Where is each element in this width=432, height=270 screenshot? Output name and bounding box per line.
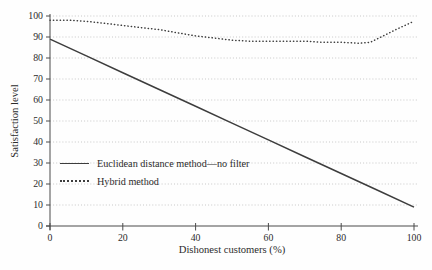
y-tick-label-70: 70 xyxy=(33,73,43,84)
legend: Euclidean distance method—no filter Hybr… xyxy=(60,154,249,190)
legend-item-euclidean: Euclidean distance method—no filter xyxy=(60,154,249,172)
legend-label-hybrid: Hybrid method xyxy=(97,176,159,187)
y-tick-label-10: 10 xyxy=(33,199,43,210)
legend-item-hybrid: Hybrid method xyxy=(60,172,249,190)
x-tick-label-0: 0 xyxy=(48,232,53,243)
solid-line-sample-icon xyxy=(60,163,89,164)
y-axis-title: Satisfaction level xyxy=(9,84,20,157)
chart-figure: 0102030405060708090100020406080100 Satis… xyxy=(0,0,432,270)
chart-plot-area: 0102030405060708090100020406080100 xyxy=(0,0,432,270)
x-tick-label-80: 80 xyxy=(336,232,346,243)
y-tick-label-40: 40 xyxy=(33,136,43,147)
dotted-line-sample-icon xyxy=(60,180,89,182)
y-tick-label-30: 30 xyxy=(33,157,43,168)
series-line-dotted xyxy=(50,20,414,43)
x-tick-label-100: 100 xyxy=(407,232,422,243)
y-tick-label-100: 100 xyxy=(28,10,43,21)
y-tick-label-50: 50 xyxy=(33,115,43,126)
y-tick-label-90: 90 xyxy=(33,31,43,42)
y-tick-label-0: 0 xyxy=(38,220,43,231)
legend-label-euclidean: Euclidean distance method—no filter xyxy=(97,158,249,169)
x-tick-label-60: 60 xyxy=(264,232,274,243)
y-tick-label-80: 80 xyxy=(33,52,43,63)
y-tick-label-60: 60 xyxy=(33,94,43,105)
x-axis-title: Dishonest customers (%) xyxy=(50,244,414,255)
x-tick-label-40: 40 xyxy=(191,232,201,243)
y-tick-label-20: 20 xyxy=(33,178,43,189)
x-tick-label-20: 20 xyxy=(118,232,128,243)
